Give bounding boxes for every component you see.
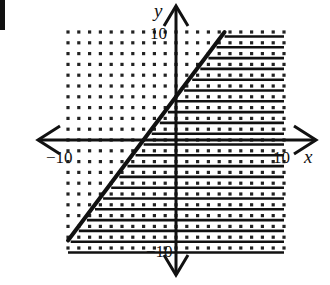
inequality-graph: y 10 −10 10 x −10 bbox=[0, 0, 330, 285]
x-axis-label: x bbox=[303, 146, 313, 167]
y-min-tick-label: −10 bbox=[146, 242, 173, 261]
x-max-tick-label: 10 bbox=[273, 148, 290, 167]
margin-bar bbox=[0, 0, 5, 30]
x-min-tick-label: −10 bbox=[46, 148, 73, 167]
y-axis-label: y bbox=[152, 0, 163, 21]
y-max-tick-label: 10 bbox=[150, 24, 167, 43]
